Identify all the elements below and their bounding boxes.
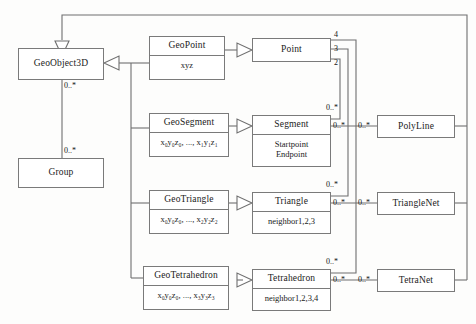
- class-box-triangle[interactable]: Triangle neighbor1,2,3: [252, 192, 331, 234]
- class-box-trianglenet[interactable]: TriangleNet: [377, 192, 455, 215]
- class-attrs-geotriangle: x₀y₀z₀, ..., x₂y₂z₂: [150, 210, 228, 228]
- multiplicity-tetrahedron-top: 0..*: [326, 258, 338, 266]
- class-box-point[interactable]: Point: [252, 38, 331, 62]
- multiplicity-triangle-right: 0..*: [333, 199, 345, 207]
- multiplicity-tetranet-left: 0..*: [358, 276, 370, 284]
- generalization-arrow-segment: [237, 119, 252, 133]
- class-box-geotetrahedron[interactable]: GeoTetrahedron x₀y₀z₀, ..., x₃y₃z₃: [143, 266, 229, 310]
- multiplicity-point-3: 3: [334, 45, 338, 53]
- class-box-segment[interactable]: Segment Startpoint Endpoint: [252, 115, 331, 167]
- class-name-polyline: PolyLine: [398, 122, 434, 132]
- class-box-polyline[interactable]: PolyLine: [377, 115, 455, 138]
- class-box-geopoint[interactable]: GeoPoint xyz: [149, 36, 225, 80]
- multiplicity-tetrahedron-right: 0..*: [333, 276, 345, 284]
- attr-segment-1: Startpoint: [255, 139, 328, 149]
- uml-class-diagram: GeoObject3D Group GeoPoint xyz GeoSegmen…: [0, 0, 476, 324]
- class-name-triangle: Triangle: [253, 193, 330, 212]
- generalization-arrow-tetrahedron: [237, 273, 252, 287]
- attr-triangle-1: neighbor1,2,3: [255, 216, 328, 226]
- class-attrs-triangle: neighbor1,2,3: [253, 212, 330, 230]
- attr-geotriangle-1: x₀y₀z₀, ..., x₂y₂z₂: [152, 214, 226, 224]
- class-attrs-geosegment: x₀y₀z₀, ..., x₁y₁z₁: [150, 133, 228, 151]
- generalization-arrow-triangle: [237, 196, 252, 210]
- generalization-arrow-point: [237, 43, 252, 57]
- multiplicity-segment-top: 0..*: [326, 104, 338, 112]
- attr-geosegment-1: x₀y₀z₀, ..., x₁y₁z₁: [152, 137, 226, 147]
- class-attrs-tetrahedron: neighbor1,2,3,4: [253, 289, 330, 307]
- outer-return-line: [62, 15, 467, 126]
- class-attrs-segment: Startpoint Endpoint: [253, 135, 330, 163]
- class-name-point: Point: [281, 45, 302, 55]
- class-box-tetranet[interactable]: TetraNet: [377, 269, 455, 292]
- multiplicity-geoobject3d-group-bottom: 0..*: [64, 147, 76, 155]
- multiplicity-trianglenet-left: 0..*: [358, 199, 370, 207]
- class-name-tetrahedron: Tetrahedron: [253, 270, 330, 289]
- attr-geotetrahedron-1: x₀y₀z₀, ..., x₃y₃z₃: [146, 290, 226, 300]
- class-name-geosegment: GeoSegment: [150, 114, 228, 133]
- class-box-geoobject3d[interactable]: GeoObject3D: [18, 48, 104, 80]
- class-box-geosegment[interactable]: GeoSegment x₀y₀z₀, ..., x₁y₁z₁: [149, 113, 229, 157]
- attr-geopoint-1: xyz: [152, 60, 222, 70]
- class-name-geoobject3d: GeoObject3D: [34, 59, 88, 69]
- multiplicity-polyline-left: 0..*: [358, 122, 370, 130]
- attr-segment-2: Endpoint: [255, 149, 328, 159]
- class-name-geotetrahedron: GeoTetrahedron: [144, 267, 228, 286]
- class-attrs-geopoint: xyz: [150, 56, 224, 74]
- class-name-tetranet: TetraNet: [399, 276, 433, 286]
- class-name-segment: Segment: [253, 116, 330, 135]
- class-name-geotriangle: GeoTriangle: [150, 191, 228, 210]
- multiplicity-point-4: 4: [334, 31, 338, 39]
- class-name-group: Group: [48, 168, 73, 178]
- multiplicity-triangle-top: 0..*: [326, 181, 338, 189]
- class-attrs-geotetrahedron: x₀y₀z₀, ..., x₃y₃z₃: [144, 286, 228, 304]
- class-box-group[interactable]: Group: [18, 158, 104, 188]
- attr-tetrahedron-1: neighbor1,2,3,4: [255, 293, 328, 303]
- class-name-geopoint: GeoPoint: [150, 37, 224, 56]
- multiplicity-geoobject3d-group-top: 0..*: [64, 82, 76, 90]
- class-box-tetrahedron[interactable]: Tetrahedron neighbor1,2,3,4: [252, 269, 331, 311]
- multiplicity-point-2: 2: [334, 59, 338, 67]
- point-tetrahedron-line: [331, 40, 356, 273]
- multiplicity-segment-right: 0..*: [333, 122, 345, 130]
- generalization-arrow-geoobject3d-right: [104, 56, 119, 70]
- class-name-trianglenet: TriangleNet: [392, 199, 439, 209]
- class-box-geotriangle[interactable]: GeoTriangle x₀y₀z₀, ..., x₂y₂z₂: [149, 190, 229, 234]
